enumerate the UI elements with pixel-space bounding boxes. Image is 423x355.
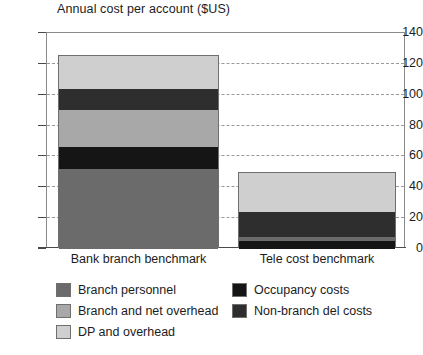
bar-segment bbox=[239, 241, 395, 249]
bar-segment bbox=[59, 56, 218, 88]
y-tick-mark-100 bbox=[38, 94, 46, 95]
bar-segment bbox=[239, 237, 395, 242]
bar-segment bbox=[59, 147, 218, 169]
y-tick-mark-80 bbox=[38, 125, 46, 126]
legend-swatch-icon bbox=[56, 325, 71, 339]
legend-swatch-icon bbox=[56, 283, 71, 297]
bar-segment bbox=[239, 173, 395, 212]
legend-label: Occupancy costs bbox=[254, 284, 349, 297]
y-tick-mark-120 bbox=[38, 63, 46, 64]
legend-item[interactable]: Branch and net overhead bbox=[56, 304, 218, 318]
legend-item[interactable]: Non-branch del costs bbox=[232, 304, 372, 318]
legend-label: Branch personnel bbox=[78, 284, 176, 297]
bar-segment bbox=[59, 89, 218, 111]
legend-swatch-icon bbox=[232, 283, 247, 297]
bar-segment bbox=[239, 212, 395, 237]
bar-2 bbox=[238, 172, 396, 248]
category-label-1: Bank branch benchmark bbox=[58, 252, 219, 266]
category-label-2: Tele cost benchmark bbox=[238, 252, 396, 266]
chart-legend: Branch personnelBranch and net overheadD… bbox=[0, 283, 423, 345]
legend-item[interactable]: Occupancy costs bbox=[232, 283, 349, 297]
stacked-bar-chart-figure: Annual cost per account ($US) 0204060801… bbox=[0, 0, 423, 355]
bar-segment bbox=[59, 169, 218, 249]
legend-label: Non-branch del costs bbox=[254, 305, 372, 318]
legend-swatch-icon bbox=[56, 304, 71, 318]
bar-1 bbox=[58, 55, 219, 248]
y-tick-mark-140 bbox=[38, 32, 46, 33]
chart-title: Annual cost per account ($US) bbox=[57, 2, 230, 16]
y-tick-mark-60 bbox=[38, 155, 46, 156]
legend-swatch-icon bbox=[232, 304, 247, 318]
y-tick-mark-40 bbox=[38, 186, 46, 187]
y-tick-mark-0 bbox=[38, 248, 46, 249]
legend-item[interactable]: DP and overhead bbox=[56, 325, 175, 339]
y-tick-mark-20 bbox=[38, 217, 46, 218]
legend-item[interactable]: Branch personnel bbox=[56, 283, 176, 297]
bar-segment bbox=[59, 110, 218, 147]
legend-label: Branch and net overhead bbox=[78, 305, 218, 318]
legend-label: DP and overhead bbox=[78, 326, 175, 339]
